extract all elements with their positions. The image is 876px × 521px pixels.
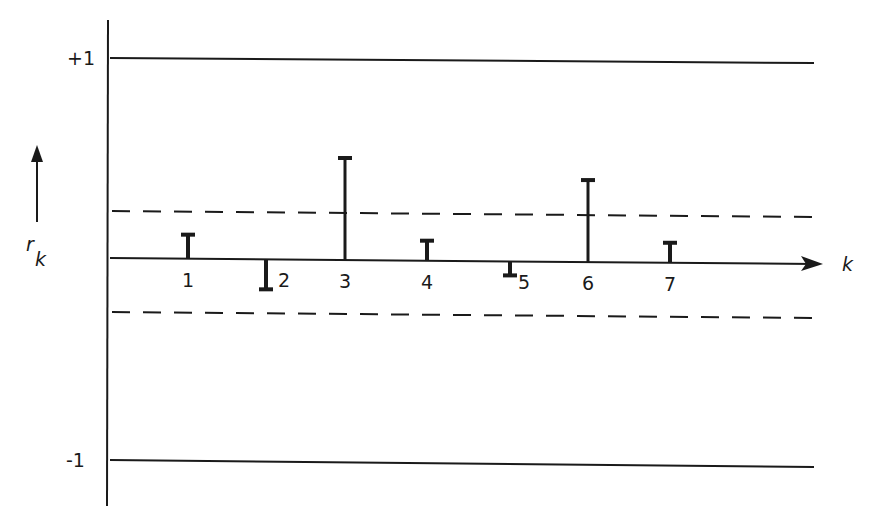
- x-axis: [110, 258, 815, 264]
- xtick-4: 4: [421, 271, 433, 293]
- correlogram-chart: +1 -1 r k k 1234567: [0, 0, 876, 521]
- bars-group: 1234567: [181, 158, 677, 295]
- y-axis-label-subscript: k: [35, 248, 47, 270]
- plus-one-line: [110, 58, 814, 63]
- y-axis-label: r: [26, 233, 35, 255]
- upper-confidence-bound-line: [112, 211, 814, 217]
- xtick-1: 1: [182, 269, 194, 291]
- xtick-7: 7: [664, 273, 676, 295]
- y-label-arrow-up-icon: [31, 145, 43, 162]
- xtick-5: 5: [518, 271, 530, 293]
- xtick-2: 2: [278, 269, 290, 291]
- xtick-3: 3: [339, 270, 351, 292]
- minus-one-line: [110, 460, 814, 467]
- xtick-6: 6: [582, 272, 594, 294]
- ytick-minus-one: -1: [66, 449, 85, 471]
- x-axis-label: k: [842, 253, 854, 275]
- y-axis: [107, 20, 108, 506]
- ytick-plus-one: +1: [67, 47, 95, 69]
- lower-confidence-bound-line: [112, 312, 814, 318]
